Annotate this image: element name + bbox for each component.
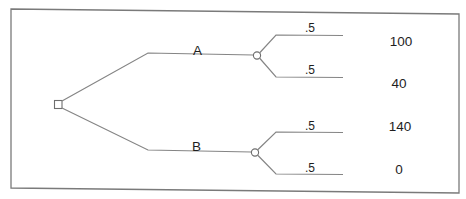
alternative-b-branch: B .5 .5 140 0: [62, 108, 411, 177]
outcome-line-a2: [260, 58, 344, 78]
outcome-line-b1: [258, 132, 344, 150]
alternative-label-b: B: [192, 139, 201, 154]
probability-label-b2: .5: [305, 161, 315, 175]
payoff-value-a2: 40: [391, 76, 406, 91]
alternative-a-branch: A .5 .5 100 40: [62, 21, 412, 101]
alternative-label-a: A: [193, 43, 202, 58]
branch-line-b: [62, 108, 252, 152]
probability-label-a2: .5: [305, 63, 315, 77]
branch-line-a: [62, 53, 254, 101]
outcome-line-b2: [258, 155, 344, 175]
payoff-value-b1: 140: [389, 119, 412, 134]
decision-node-square: [55, 101, 63, 109]
payoff-value-a1: 100: [390, 34, 413, 49]
probability-label-b1: .5: [305, 119, 315, 133]
payoff-value-b2: 0: [395, 162, 403, 177]
outcome-line-a1: [260, 35, 344, 53]
decision-tree-diagram: A .5 .5 100 40 B .5 .5 140 0: [0, 0, 466, 199]
probability-label-a1: .5: [305, 21, 315, 35]
